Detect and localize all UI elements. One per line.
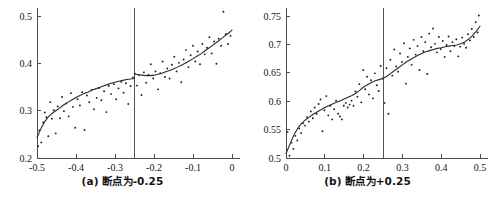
scatter-dot xyxy=(63,110,65,112)
scatter-dot xyxy=(164,76,166,78)
scatter-dot xyxy=(194,60,196,62)
scatter-dot xyxy=(387,113,389,115)
scatter-plot-b: 00.10.20.30.40.50.50.550.60.650.70.75 xyxy=(245,0,490,176)
scatter-dot xyxy=(211,52,213,54)
fit-curve-fitted-left xyxy=(37,78,135,137)
scatter-dot xyxy=(152,78,154,80)
scatter-dot xyxy=(222,11,224,13)
scatter-dot xyxy=(368,93,370,95)
y-tick-label: 0.3 xyxy=(20,105,33,116)
scatter-dot xyxy=(471,28,473,30)
y-tick-label: 0.75 xyxy=(264,11,282,22)
scatter-dot xyxy=(419,69,421,71)
scatter-dot xyxy=(478,14,480,16)
x-tick-label: 0.3 xyxy=(396,162,409,173)
scatter-dot xyxy=(395,66,397,68)
scatter-dot xyxy=(358,83,360,85)
scatter-dot xyxy=(455,38,457,40)
scatter-dot xyxy=(438,36,440,38)
scatter-dot xyxy=(355,91,357,93)
panel-b-caption: (b) 断点为+0.25 xyxy=(245,174,490,188)
scatter-dot xyxy=(289,155,291,157)
scatter-dot xyxy=(141,94,143,96)
scatter-dot xyxy=(407,56,409,58)
x-tick-label: 0.2 xyxy=(357,162,370,173)
y-tick-label: 0.6 xyxy=(269,96,282,107)
scatter-dot xyxy=(386,67,388,69)
scatter-dot xyxy=(192,45,194,47)
x-tick-label: -0.3 xyxy=(107,162,123,173)
scatter-dot xyxy=(145,82,147,84)
scatter-dot xyxy=(183,59,185,61)
scatter-dot xyxy=(296,139,298,141)
scatter-dot xyxy=(345,102,347,104)
scatter-dot xyxy=(93,108,95,110)
scatter-dot xyxy=(310,110,312,112)
scatter-dot xyxy=(61,96,63,98)
scatter-dot xyxy=(335,100,337,102)
panel-a-caption-text: (a) 断点为-0.25 xyxy=(82,175,164,187)
scatter-dot xyxy=(57,105,59,107)
scatter-dot xyxy=(180,81,182,83)
panel-b: 00.10.20.30.40.50.50.550.60.650.70.75 (b… xyxy=(245,0,490,202)
scatter-dot xyxy=(312,117,314,119)
scatter-dot xyxy=(333,108,335,110)
scatter-dot xyxy=(339,116,341,118)
scatter-dot xyxy=(356,96,358,98)
scatter-dot xyxy=(171,64,173,66)
y-tick-label: 0.55 xyxy=(264,124,282,135)
scatter-dot xyxy=(304,125,306,127)
x-tick-label: 0.5 xyxy=(474,162,487,173)
scatter-dot xyxy=(370,79,372,81)
scatter-dot xyxy=(300,132,302,134)
scatter-dot xyxy=(446,44,448,46)
scatter-dot xyxy=(432,28,434,30)
scatter-dot xyxy=(47,135,49,137)
panel-b-plot: 00.10.20.30.40.50.50.550.60.650.70.75 xyxy=(245,0,490,176)
scatter-dot xyxy=(420,36,422,38)
scatter-dot xyxy=(362,69,364,71)
scatter-dot xyxy=(84,129,86,131)
scatter-dot xyxy=(401,61,403,63)
scatter-dot xyxy=(374,72,376,74)
scatter-dot xyxy=(115,98,117,100)
y-tick-label: 0.7 xyxy=(269,39,282,50)
scatter-dot xyxy=(349,104,351,106)
scatter-dot xyxy=(308,121,310,123)
scatter-dot xyxy=(185,49,187,51)
x-tick-label: 0 xyxy=(230,162,235,173)
x-tick-label: -0.4 xyxy=(68,162,84,173)
scatter-dot xyxy=(314,107,316,109)
scatter-dot xyxy=(428,33,430,35)
scatter-dot xyxy=(448,36,450,38)
scatter-dot xyxy=(215,63,217,65)
scatter-dot xyxy=(125,82,127,84)
scatter-dot xyxy=(467,33,469,35)
scatter-dot xyxy=(79,105,81,107)
scatter-dot xyxy=(376,84,378,86)
scatter-dot xyxy=(405,83,407,85)
scatter-dot xyxy=(74,127,76,129)
scatter-dot xyxy=(113,83,115,85)
scatter-dot xyxy=(162,60,164,62)
scatter-dot xyxy=(360,101,362,103)
fit-curve-fitted-right xyxy=(135,30,233,75)
scatter-dot xyxy=(366,76,368,78)
panel-a-plot: -0.5-0.4-0.3-0.2-0.100.20.30.40.5 xyxy=(0,0,245,176)
scatter-dot xyxy=(53,109,55,111)
y-tick-label: 0.5 xyxy=(20,11,33,22)
scatter-dot xyxy=(49,101,51,103)
scatter-dot xyxy=(343,105,345,107)
scatter-dot xyxy=(436,51,438,53)
x-tick-label: 0.4 xyxy=(435,162,448,173)
scatter-dot xyxy=(197,51,199,53)
scatter-dot xyxy=(341,118,343,120)
fit-curve-fitted-right xyxy=(383,26,480,78)
scatter-dot xyxy=(399,53,401,55)
scatter-dot xyxy=(227,43,229,45)
scatter-plot-a: -0.5-0.4-0.3-0.2-0.100.20.30.40.5 xyxy=(0,0,245,176)
scatter-dot xyxy=(323,109,325,111)
scatter-dot xyxy=(178,62,180,64)
scatter-dot xyxy=(136,85,138,87)
scatter-dot xyxy=(378,90,380,92)
